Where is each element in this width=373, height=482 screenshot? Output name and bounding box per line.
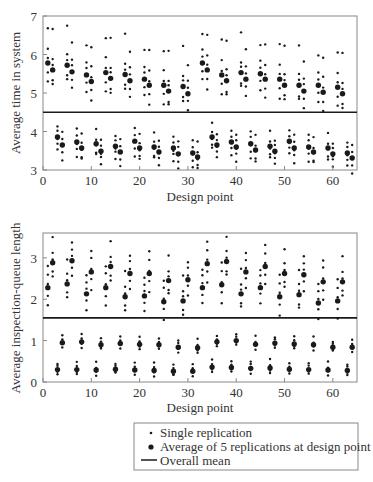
- single-replication-point: [51, 252, 53, 254]
- single-replication-point: [230, 147, 232, 149]
- single-replication-point: [298, 283, 300, 285]
- single-replication-point: [240, 61, 242, 63]
- single-replication-point: [303, 262, 305, 264]
- single-replication-point: [346, 141, 348, 143]
- y-tick-label: 1: [31, 334, 38, 349]
- single-replication-point: [303, 290, 305, 292]
- single-replication-point: [114, 135, 116, 137]
- single-replication-point: [332, 158, 334, 160]
- single-replication-point: [158, 146, 160, 148]
- single-replication-point: [167, 80, 169, 82]
- single-replication-point: [293, 133, 295, 135]
- single-replication-point: [124, 270, 126, 272]
- single-replication-point: [211, 371, 213, 373]
- single-replication-point: [51, 79, 53, 81]
- single-replication-point: [134, 374, 136, 376]
- average-point: [238, 291, 243, 296]
- single-replication-point: [317, 290, 319, 292]
- single-replication-point: [201, 33, 203, 35]
- single-replication-point: [245, 65, 247, 67]
- single-replication-point: [336, 72, 338, 74]
- single-replication-point: [298, 98, 300, 100]
- single-replication-point: [56, 365, 58, 367]
- single-replication-point: [245, 48, 247, 50]
- single-replication-point: [163, 308, 165, 310]
- average-point: [84, 291, 89, 296]
- legend-item-overall-mean: Overall mean: [160, 453, 231, 468]
- average-point: [243, 76, 248, 81]
- single-replication-point: [71, 266, 73, 268]
- single-replication-point: [279, 292, 281, 294]
- single-replication-point: [351, 172, 353, 174]
- average-point: [200, 60, 205, 65]
- average-point: [253, 342, 258, 347]
- single-replication-point: [56, 142, 58, 144]
- single-replication-point: [303, 60, 305, 62]
- single-replication-point: [56, 130, 58, 132]
- single-replication-point: [100, 144, 102, 146]
- single-replication-point: [100, 156, 102, 158]
- single-replication-point: [225, 91, 227, 93]
- average-point: [335, 85, 340, 90]
- single-replication-point: [85, 67, 87, 69]
- single-replication-point: [187, 100, 189, 102]
- average-point: [296, 83, 301, 88]
- single-replication-point: [322, 101, 324, 103]
- single-replication-point: [250, 363, 252, 365]
- single-replication-point: [177, 161, 179, 163]
- y-tick-label: 3: [31, 163, 38, 178]
- single-replication-point: [312, 136, 314, 138]
- average-point: [108, 76, 113, 81]
- x-tick-label: 40: [230, 173, 243, 188]
- single-replication-point: [336, 81, 338, 83]
- single-replication-point: [167, 292, 169, 294]
- average-point: [151, 368, 156, 373]
- single-replication-point: [90, 250, 92, 252]
- single-replication-point: [105, 304, 107, 306]
- single-replication-point: [288, 372, 290, 374]
- single-replication-point: [254, 335, 256, 337]
- single-replication-point: [143, 86, 145, 88]
- single-replication-point: [95, 361, 97, 363]
- average-point: [205, 261, 210, 266]
- single-replication-point: [279, 43, 281, 45]
- single-replication-point: [322, 259, 324, 261]
- average-point: [161, 83, 166, 88]
- single-replication-point: [235, 343, 237, 345]
- single-replication-point: [153, 375, 155, 377]
- plot-average-inspection-queue-length: 0123 0102030405060 Design point Average …: [8, 222, 357, 415]
- single-replication-point: [129, 260, 131, 262]
- single-replication-point: [312, 335, 314, 337]
- single-replication-point: [134, 147, 136, 149]
- single-replication-point: [279, 63, 281, 65]
- single-replication-point: [221, 302, 223, 304]
- single-replication-point: [143, 66, 145, 68]
- average-point: [301, 272, 306, 277]
- single-replication-point: [153, 140, 155, 142]
- x-tick-label: 50: [278, 173, 291, 188]
- average-point: [137, 145, 142, 150]
- single-replication-point: [109, 279, 111, 281]
- single-replication-point: [85, 91, 87, 93]
- average-point: [234, 338, 239, 343]
- single-replication-point: [129, 280, 131, 282]
- single-replication-point: [336, 95, 338, 97]
- single-replication-point: [341, 88, 343, 90]
- single-replication-point: [303, 77, 305, 79]
- single-replication-point: [182, 96, 184, 98]
- single-replication-point: [235, 335, 237, 337]
- single-replication-point: [95, 153, 97, 155]
- single-replication-point: [85, 281, 87, 283]
- single-replication-point: [105, 265, 107, 267]
- single-replication-point: [114, 139, 116, 141]
- single-replication-point: [129, 254, 131, 256]
- single-replication-point: [240, 268, 242, 270]
- single-replication-point: [90, 289, 92, 291]
- average-point: [229, 365, 234, 370]
- average-point: [320, 279, 325, 284]
- single-replication-point: [90, 65, 92, 67]
- x-tick-label: 30: [181, 385, 194, 400]
- average-point: [147, 83, 152, 88]
- single-replication-point: [192, 159, 194, 161]
- single-replication-point: [177, 146, 179, 148]
